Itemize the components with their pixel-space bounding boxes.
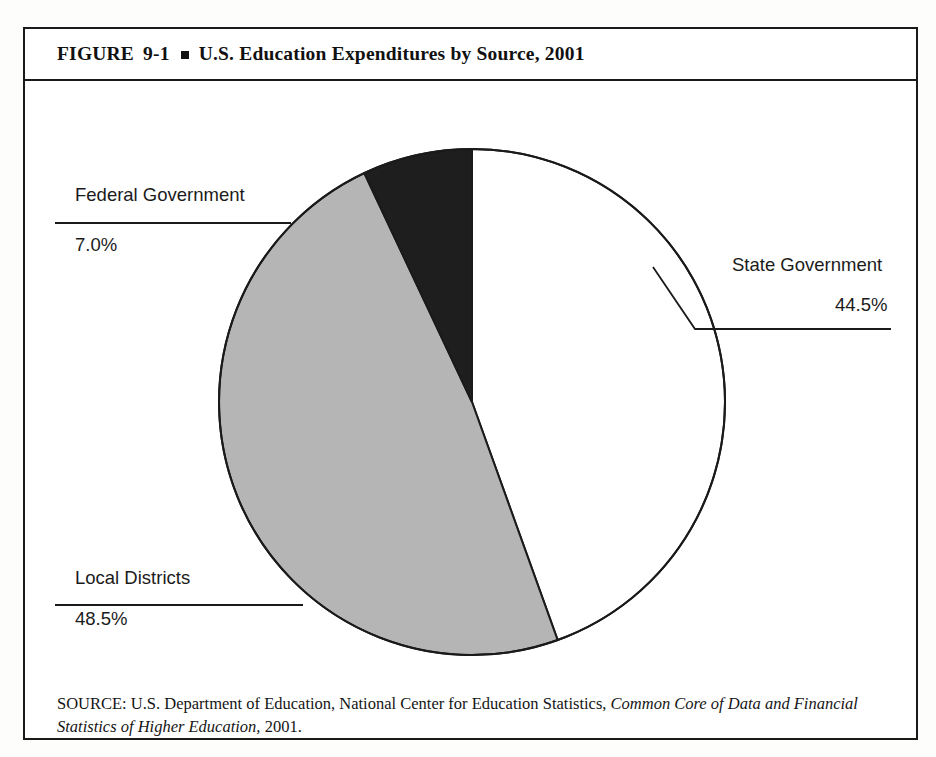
- label-local-districts: Local Districts: [75, 567, 190, 589]
- page-title: FIGURE9-1U.S. Education Expenditures by …: [25, 43, 585, 65]
- source-prefix: SOURCE: U.S. Department of Education, Na…: [57, 694, 611, 713]
- value-federal-government: 7.0%: [75, 234, 117, 256]
- figure-title-bar: FIGURE9-1U.S. Education Expenditures by …: [25, 29, 916, 81]
- square-bullet-icon: [181, 51, 189, 59]
- pie-chart-svg: [25, 81, 916, 685]
- figure-frame: FIGURE9-1U.S. Education Expenditures by …: [23, 27, 918, 740]
- pie-chart-area: Federal Government 7.0% State Government…: [25, 81, 916, 685]
- value-local-districts: 48.5%: [75, 608, 127, 630]
- label-federal-government: Federal Government: [75, 184, 245, 206]
- value-state-government: 44.5%: [835, 294, 887, 316]
- label-state-government: State Government: [732, 254, 882, 276]
- figure-word: FIGURE: [57, 43, 134, 64]
- source-note: SOURCE: U.S. Department of Education, Na…: [57, 692, 887, 739]
- figure-number: 9-1: [143, 43, 170, 64]
- figure-title-text: U.S. Education Expenditures by Source, 2…: [199, 43, 585, 64]
- source-suffix: 2001.: [261, 717, 302, 736]
